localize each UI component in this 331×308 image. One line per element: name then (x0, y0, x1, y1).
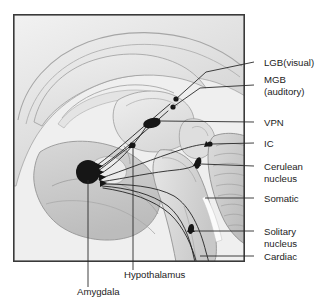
label-amygdala: Amygdala (77, 286, 120, 297)
label-hypothalamus: Hypothalamus (124, 269, 186, 280)
label-somatic: Somatic (264, 193, 299, 204)
label-mgb: MGB (264, 74, 286, 85)
figure-canvas: LGB(visual) MGB (auditory) VPN IC Cerule… (0, 0, 331, 308)
brain-illustration (13, 14, 245, 284)
label-cerulean: Cerulean (264, 161, 303, 172)
label-vpn: VPN (264, 117, 284, 128)
label-solitary-nucleus: nucleus (264, 238, 297, 249)
right-label-group: LGB(visual) MGB (auditory) VPN IC Cerule… (264, 57, 314, 262)
label-solitary: Solitary (264, 226, 296, 237)
brain-pathway-figure: LGB(visual) MGB (auditory) VPN IC Cerule… (0, 0, 331, 308)
label-cerulean-nucleus: nucleus (264, 173, 297, 184)
label-ic: IC (264, 138, 274, 149)
ic-nucleus (207, 141, 212, 146)
label-lgb-visual: LGB(visual) (264, 57, 314, 68)
label-mgb-auditory: (auditory) (264, 86, 305, 97)
hypothalamus-marker (130, 142, 135, 147)
label-cardiac: Cardiac (264, 251, 297, 262)
